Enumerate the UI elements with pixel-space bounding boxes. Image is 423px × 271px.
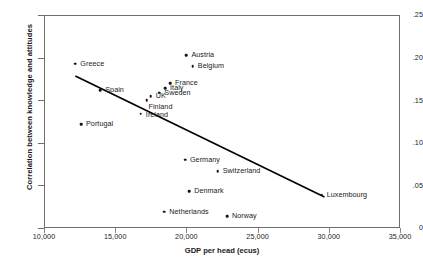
data-point-label: Ireland <box>146 111 168 119</box>
data-point-label: Norway <box>232 212 257 220</box>
data-point-label: Portugal <box>86 120 113 128</box>
data-point-marker[interactable] <box>74 62 77 65</box>
data-point-marker[interactable] <box>216 170 219 173</box>
data-point-label: Switzerland <box>223 167 261 175</box>
data-point-marker[interactable] <box>226 215 229 218</box>
data-point-label: Germany <box>190 156 220 164</box>
data-point-label: Belgium <box>198 62 224 70</box>
data-point-label: Spain <box>105 86 124 94</box>
data-point-marker[interactable] <box>80 123 83 126</box>
data-point-marker[interactable] <box>192 65 195 68</box>
data-point-marker[interactable] <box>185 54 188 57</box>
data-point-marker[interactable] <box>150 95 153 98</box>
data-point-label: Sweden <box>164 89 190 97</box>
data-point-label: Denmark <box>194 188 224 196</box>
data-point-label: Netherlands <box>169 208 208 216</box>
data-point-marker[interactable] <box>184 159 187 162</box>
data-point-label: Greece <box>80 60 104 68</box>
data-point-marker[interactable] <box>320 193 323 196</box>
data-point-marker[interactable] <box>188 190 191 193</box>
data-point-label: Austria <box>191 51 214 59</box>
data-point-marker[interactable] <box>99 89 102 92</box>
data-point-label: UK <box>156 92 166 100</box>
data-point-marker[interactable] <box>145 99 148 102</box>
scatter-chart-figure: 0.05.10.15.20.25 10,00015,00020,00025,00… <box>0 0 423 271</box>
data-points-layer: GreeceSpainPortugalAustriaBelgiumFranceI… <box>0 0 423 271</box>
data-point-marker[interactable] <box>140 113 143 116</box>
data-point-marker[interactable] <box>163 211 166 214</box>
data-point-label: Luxembourg <box>327 191 367 199</box>
